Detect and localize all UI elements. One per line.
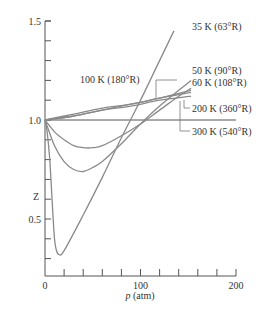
annotation-300-k-540-r: 300 K (540°R) <box>192 126 252 138</box>
x-tick-label: 200 <box>229 280 244 291</box>
y-tick-label: 0.5 <box>29 214 42 225</box>
x-tick-label: 0 <box>43 280 48 291</box>
y-tick-label: 1.0 <box>29 115 42 126</box>
x-axis-title-unit: (atm) <box>130 290 154 302</box>
annotation-60-k-108-r: 60 K (108°R) <box>192 77 247 89</box>
x-axis-title: p (atm) <box>124 290 154 302</box>
axes: 0.51.01.50100200 <box>29 16 244 292</box>
y-axis-title: Z <box>33 191 39 202</box>
curve-300-k-540-r <box>45 96 191 120</box>
annotation-200-k-360-r: 200 K (360°R) <box>192 103 252 115</box>
y-tick-label: 1.5 <box>29 16 42 27</box>
chart-container: 0.51.01.50100200 35 K (63°R)50 K (90°R)6… <box>0 0 265 321</box>
curve-50-k-90-r <box>45 80 191 171</box>
annotation-35-k-63-r: 35 K (63°R) <box>192 21 242 33</box>
annotation-100-k-180-r: 100 K (180°R) <box>80 74 140 86</box>
annotation-50-k-90-r: 50 K (90°R) <box>192 65 242 77</box>
curve-200-k-360-r <box>45 92 191 120</box>
curves <box>45 31 191 255</box>
compressibility-chart: 0.51.01.50100200 35 K (63°R)50 K (90°R)6… <box>0 0 265 321</box>
